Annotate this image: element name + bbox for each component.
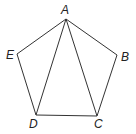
edge-ea (17, 19, 66, 54)
edge-cd (36, 115, 97, 116)
diagonal-ad (36, 19, 66, 115)
pentagon-edges (17, 19, 117, 116)
edge-ab (66, 19, 117, 55)
vertex-label-d: D (29, 117, 38, 131)
diagonal-ac (66, 19, 97, 116)
edge-de (17, 54, 36, 115)
vertex-label-b: B (121, 50, 129, 64)
vertex-label-c: C (94, 117, 103, 131)
vertex-label-a: A (60, 3, 69, 17)
pentagon-diagram: A B C D E (0, 0, 136, 134)
edge-bc (97, 55, 117, 116)
vertex-label-e: E (6, 48, 15, 62)
